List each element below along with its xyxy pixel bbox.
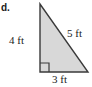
geometry-figure: d. 4 ft 5 ft 3 ft bbox=[0, 0, 92, 87]
dimension-label-horizontal-leg: 3 ft bbox=[52, 73, 67, 85]
dimension-label-hypotenuse: 5 ft bbox=[67, 27, 82, 39]
dimension-label-vertical-leg: 4 ft bbox=[9, 34, 24, 46]
